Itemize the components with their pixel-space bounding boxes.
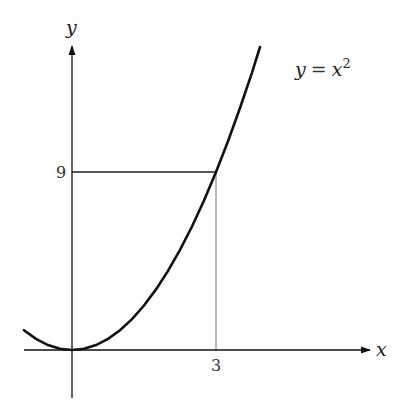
parabola-diagram: y x 9 3 y=x2 xyxy=(0,0,397,401)
x-tick-label: 3 xyxy=(211,356,221,375)
equation-label: y=x2 xyxy=(294,56,351,80)
x-axis-label: x xyxy=(376,338,387,360)
parabola-curve xyxy=(24,46,260,350)
y-axis-label: y xyxy=(65,16,77,38)
svg-text:y=x2: y=x2 xyxy=(294,56,351,80)
parabola-curve-line xyxy=(24,47,260,350)
y-tick-label: 9 xyxy=(56,163,66,182)
